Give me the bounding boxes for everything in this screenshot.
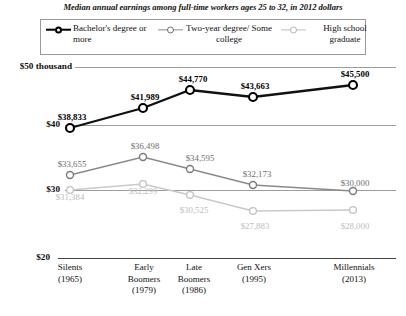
x-category-name-2: Boomers <box>128 274 161 286</box>
point-marker <box>67 172 74 179</box>
data-label: $32,299 <box>129 186 158 196</box>
point-marker <box>350 188 357 195</box>
point-marker <box>186 86 194 94</box>
x-category-name-2: Boomers <box>178 274 211 286</box>
x-category-name: Gen Xers <box>237 262 271 272</box>
point-marker <box>350 207 357 214</box>
point-marker <box>250 182 257 189</box>
x-category-year: (2013) <box>334 274 375 286</box>
data-label: $44,770 <box>179 74 208 84</box>
data-label: $32,173 <box>243 169 272 179</box>
data-label: $34,595 <box>186 153 215 163</box>
data-label: $27,883 <box>241 221 270 231</box>
x-category-year: (1995) <box>237 274 271 286</box>
data-label: $43,663 <box>241 81 270 91</box>
x-category-name: Early <box>134 262 154 272</box>
data-label: $36,498 <box>131 141 160 151</box>
point-marker <box>349 81 357 89</box>
data-label: $33,655 <box>58 159 87 169</box>
x-category-year: (1965) <box>58 274 83 286</box>
point-marker <box>187 192 194 199</box>
x-category-name: Late <box>186 262 202 272</box>
x-category-year: (1979) <box>128 285 161 297</box>
data-label: $41,989 <box>131 92 160 102</box>
point-marker <box>140 154 147 161</box>
x-category-name: Millennials <box>334 262 375 272</box>
x-category-millennials: Millennials (2013) <box>334 262 375 285</box>
x-category-gen-xers: Gen Xers (1995) <box>237 262 271 285</box>
x-category-name: Silents <box>58 262 83 272</box>
data-label: $38,833 <box>58 112 87 122</box>
data-label: $45,500 <box>341 69 370 79</box>
data-label: $31,384 <box>56 192 85 202</box>
chart-figure: Median annual earnings among full-time w… <box>0 0 406 316</box>
point-marker <box>250 208 257 215</box>
x-category-year: (1986) <box>178 285 211 297</box>
point-marker <box>187 166 194 173</box>
point-marker <box>139 104 147 112</box>
point-marker <box>66 124 74 132</box>
line-bachelors <box>70 85 353 128</box>
data-label: $28,000 <box>341 221 370 231</box>
x-category-silents: Silents (1965) <box>58 262 83 285</box>
point-marker <box>249 93 257 101</box>
x-category-early-boomers: Early Boomers (1979) <box>128 262 161 297</box>
plot-area: $50 thousand $40 $30 $20 <box>0 0 406 316</box>
data-label: $30,000 <box>341 178 370 188</box>
x-category-late-boomers: Late Boomers (1986) <box>178 262 211 297</box>
data-label: $30,525 <box>180 205 209 215</box>
